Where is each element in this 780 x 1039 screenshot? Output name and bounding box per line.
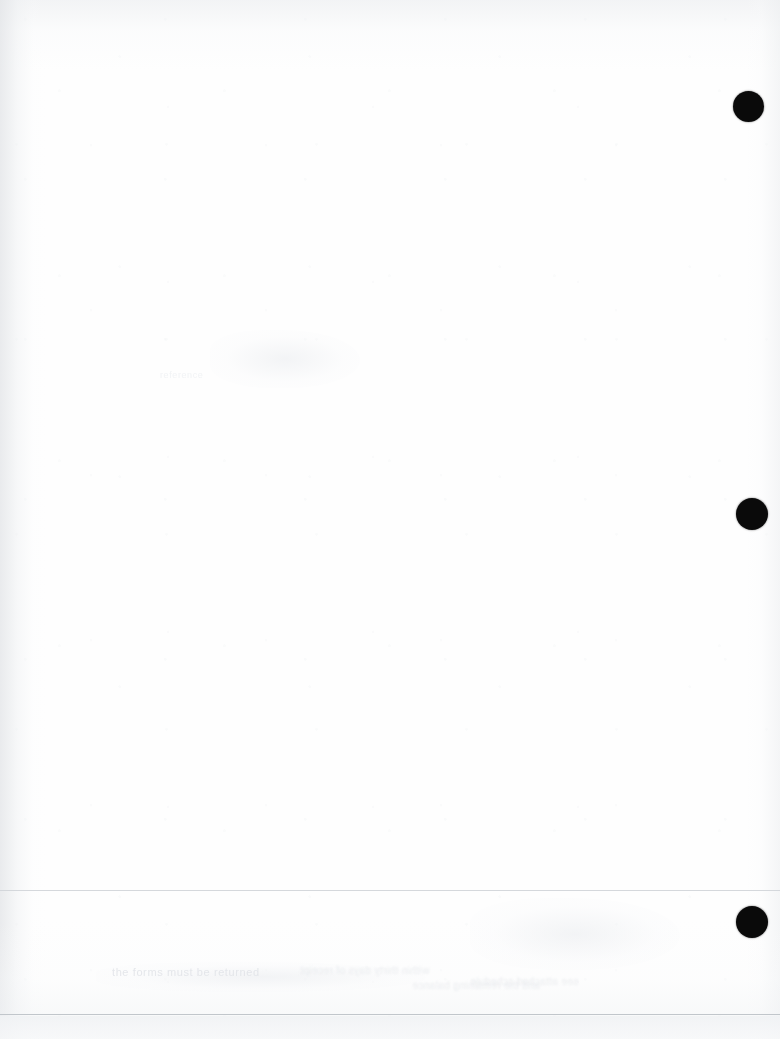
hole-punch-mark-bottom (736, 906, 768, 938)
footer-band (0, 1016, 780, 1039)
paper-surface (0, 0, 780, 1039)
horizontal-rule-lower (0, 1014, 780, 1015)
hole-punch-mark-top (733, 91, 764, 122)
hole-punch-mark-middle (736, 498, 768, 530)
scanned-page: the forms must be returned within thirty… (0, 0, 780, 1039)
horizontal-rule-upper (0, 890, 780, 891)
